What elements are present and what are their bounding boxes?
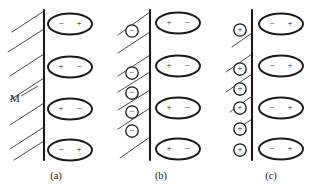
dipole-right-sign: + <box>287 143 292 153</box>
dipole-right-sign: + <box>76 18 81 28</box>
dipole: +− <box>156 98 200 119</box>
surface-ion-negative-icon: − <box>126 25 138 37</box>
dipole: +− <box>156 139 200 160</box>
dipole-ellipse <box>48 99 92 120</box>
surface-ion-positive-icon: + <box>234 63 246 75</box>
figure-root: M−++−+−−+(a)−−−−−+−+−+−+−(b)++++++−+−+−+… <box>0 0 312 185</box>
ion-sign: − <box>130 67 135 77</box>
dipole: −+ <box>259 14 303 35</box>
ion-sign: + <box>238 123 243 133</box>
ion-sign: − <box>130 125 135 135</box>
dipole-left-sign: − <box>269 60 274 70</box>
dipole-right-sign: − <box>76 103 81 113</box>
dipole-left-sign: − <box>58 144 63 154</box>
electrode-double-layer-diagram: M−++−+−−+(a)−−−−−+−+−+−+−(b)++++++−+−+−+… <box>0 0 312 185</box>
dipole-left-sign: − <box>269 18 274 28</box>
dipole: +− <box>48 57 92 78</box>
ion-sign: + <box>238 63 243 73</box>
ion-sign: − <box>130 87 135 97</box>
surface-ion-negative-icon: − <box>126 67 138 79</box>
dipole-ellipse <box>156 98 200 119</box>
dipole: +− <box>156 13 200 34</box>
surface-ion-positive-icon: + <box>234 144 246 156</box>
dipole-left-sign: + <box>58 61 63 71</box>
dipole-ellipse <box>259 14 303 35</box>
dipole-ellipse <box>259 139 303 160</box>
dipole-ellipse <box>48 57 92 78</box>
surface-ion-positive-icon: + <box>234 123 246 135</box>
surface-ion-positive-icon: + <box>234 83 246 95</box>
surface-ion-negative-icon: − <box>126 106 138 118</box>
dipole-right-sign: − <box>184 17 189 27</box>
dipole: +− <box>156 56 200 77</box>
dipole: −+ <box>259 56 303 77</box>
dipole-ellipse <box>156 139 200 160</box>
dipole-left-sign: + <box>166 17 171 27</box>
ion-sign: − <box>130 106 135 116</box>
panel-caption-b: (b) <box>155 170 168 182</box>
ion-sign: + <box>238 24 243 34</box>
dipole-left-sign: + <box>58 103 63 113</box>
dipole: −+ <box>259 139 303 160</box>
dipole: −+ <box>48 140 92 161</box>
dipole-left-sign: − <box>58 18 63 28</box>
ion-sign: + <box>238 102 243 112</box>
dipole-right-sign: + <box>287 102 292 112</box>
panel-caption-a: (a) <box>50 170 62 182</box>
dipole-ellipse <box>156 13 200 34</box>
dipole-ellipse <box>48 140 92 161</box>
dipole-left-sign: + <box>166 102 171 112</box>
dipole-left-sign: − <box>269 102 274 112</box>
dipole: −+ <box>259 98 303 119</box>
ion-sign: + <box>238 144 243 154</box>
dipole-right-sign: − <box>184 143 189 153</box>
dipole-ellipse <box>259 56 303 77</box>
surface-ion-positive-icon: + <box>234 102 246 114</box>
dipole-right-sign: − <box>76 61 81 71</box>
dipole-left-sign: − <box>269 143 274 153</box>
dipole-left-sign: + <box>166 60 171 70</box>
surface-ion-positive-icon: + <box>234 24 246 36</box>
dipole-left-sign: + <box>166 143 171 153</box>
panel-caption-c: (c) <box>265 170 277 182</box>
dipole-right-sign: + <box>287 18 292 28</box>
ion-sign: − <box>130 25 135 35</box>
dipole-right-sign: + <box>76 144 81 154</box>
surface-ion-negative-icon: − <box>126 125 138 137</box>
surface-ion-negative-icon: − <box>126 87 138 99</box>
ion-sign: + <box>238 83 243 93</box>
dipole-ellipse <box>48 14 92 35</box>
dipole-right-sign: − <box>184 60 189 70</box>
dipole-right-sign: + <box>287 60 292 70</box>
dipole: +− <box>48 99 92 120</box>
dipole: −+ <box>48 14 92 35</box>
dipole-right-sign: − <box>184 102 189 112</box>
wall-label-M: M <box>10 92 20 104</box>
dipole-ellipse <box>156 56 200 77</box>
dipole-ellipse <box>259 98 303 119</box>
